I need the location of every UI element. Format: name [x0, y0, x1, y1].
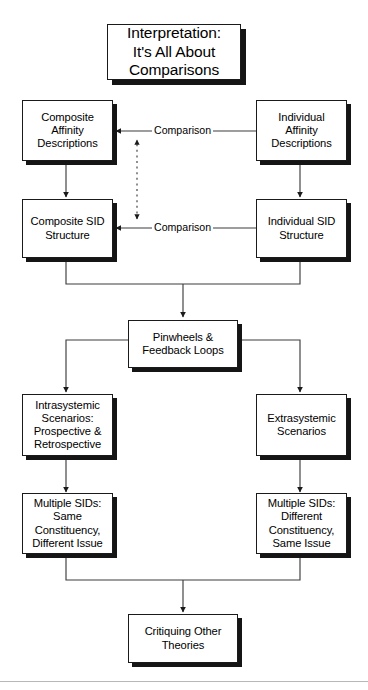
- node-label: Individual SID Structure: [257, 215, 346, 241]
- node-critiquing-other-theories: Critiquing Other Theories: [128, 614, 238, 663]
- node-intrasystemic-scenarios: Intrasystemic Scenarios: Prospective & R…: [22, 394, 113, 456]
- node-label: Multiple SIDs: Same Constituency, Differ…: [23, 497, 112, 550]
- node-label: Composite SID Structure: [23, 215, 112, 241]
- node-individual-sid-structure: Individual SID Structure: [256, 199, 347, 258]
- node-multiple-sids-same-constituency: Multiple SIDs: Same Constituency, Differ…: [22, 493, 113, 554]
- node-label: Individual Affinity Descriptions: [257, 111, 346, 151]
- node-extrasystemic-scenarios: Extrasystemic Scenarios: [256, 394, 347, 456]
- edge-label-comparison-affinity: Comparison: [152, 125, 213, 136]
- edge-pinwheels-to-extrasystemic: [238, 340, 300, 392]
- node-individual-affinity-descriptions: Individual Affinity Descriptions: [256, 100, 347, 161]
- edge-multiple-sids-merge: [66, 556, 300, 580]
- node-label: Critiquing Other Theories: [129, 625, 237, 651]
- node-label: Extrasystemic Scenarios: [257, 412, 346, 438]
- node-pinwheels-feedback-loops: Pinwheels & Feedback Loops: [128, 320, 238, 368]
- edge-sid-merge: [66, 261, 300, 284]
- flowchart-diagram: Interpretation: It's All About Compariso…: [0, 0, 368, 690]
- node-label: Pinwheels & Feedback Loops: [129, 331, 237, 357]
- node-label: Multiple SIDs: Different Constituency, S…: [257, 497, 346, 550]
- title-box: Interpretation: It's All About Compariso…: [107, 24, 241, 80]
- node-label: Composite Affinity Descriptions: [23, 111, 112, 151]
- edge-label-comparison-sid: Comparison: [152, 222, 213, 233]
- node-label: Intrasystemic Scenarios: Prospective & R…: [23, 399, 112, 452]
- page-rule-divider: [0, 681, 368, 682]
- node-composite-affinity-descriptions: Composite Affinity Descriptions: [22, 100, 113, 161]
- edge-pinwheels-to-intrasystemic: [66, 340, 128, 392]
- node-multiple-sids-different-constituency: Multiple SIDs: Different Constituency, S…: [256, 493, 347, 554]
- title-box-label: Interpretation: It's All About Compariso…: [108, 24, 240, 81]
- node-composite-sid-structure: Composite SID Structure: [22, 199, 113, 258]
